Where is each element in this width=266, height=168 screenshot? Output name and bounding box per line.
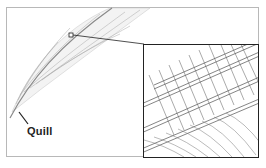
quill-pointer: [19, 112, 28, 124]
feather-vane: [12, 8, 150, 112]
quill-label: Quill: [27, 125, 52, 137]
magnified-inset: [143, 44, 259, 158]
barbs-illustration: [144, 45, 259, 158]
magnify-marker: [69, 33, 73, 37]
